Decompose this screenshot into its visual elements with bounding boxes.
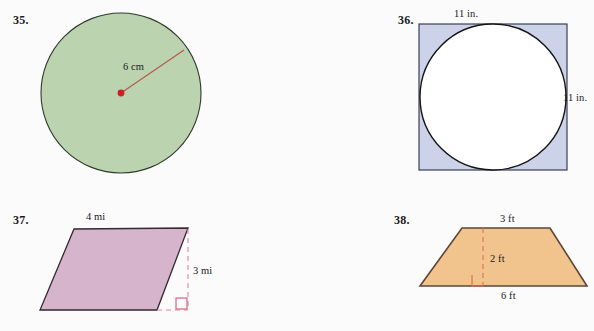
geometry-worksheet: 35. 6 cm 36. 11 in. 11 in. 37.	[0, 0, 594, 331]
square-top-side-label: 11 in.	[454, 8, 478, 19]
circle-figure	[30, 5, 220, 185]
trapezoid-bottom-base-label: 6 ft	[501, 290, 516, 301]
inscribed-circle-shape	[420, 24, 566, 170]
trapezoid-top-base-label: 3 ft	[500, 213, 515, 224]
problem-35-number: 35.	[13, 13, 29, 28]
center-point-dot	[118, 90, 125, 97]
right-angle-marker	[176, 298, 187, 309]
parallelogram-figure	[32, 220, 207, 320]
problem-37: 37. 4 mi 3 mi	[0, 195, 297, 331]
problem-37-number: 37.	[13, 213, 29, 228]
problem-35: 35. 6 cm	[0, 0, 297, 195]
problem-38-number: 38.	[394, 213, 410, 228]
problem-38: 38. 3 ft 2 ft 6 ft	[297, 195, 594, 331]
parallelogram-base-label: 4 mi	[86, 211, 105, 222]
parallelogram-shape	[40, 228, 188, 310]
trapezoid-height-label: 2 ft	[490, 253, 505, 264]
problem-36-number: 36.	[398, 13, 414, 28]
square-with-circle-figure	[415, 20, 575, 178]
problem-36: 36. 11 in. 11 in.	[297, 0, 594, 195]
square-right-side-label: 11 in.	[563, 92, 587, 103]
parallelogram-height-label: 3 mi	[193, 265, 212, 276]
circle-radius-label: 6 cm	[123, 61, 144, 72]
